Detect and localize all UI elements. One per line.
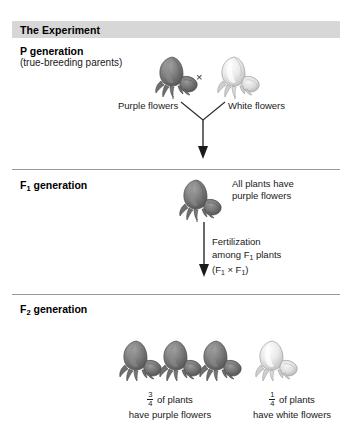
f2-white-caption: 14 of plants have white flowers xyxy=(244,391,340,421)
f2-white-caption-line-1: 14 of plants xyxy=(244,391,340,409)
fraction-one-quarter-denominator: 4 xyxy=(269,400,275,409)
f2-white-flower-icon-1 xyxy=(252,337,304,383)
f2-label-tail: generation xyxy=(31,303,88,315)
f2-white-caption-text-1: of plants xyxy=(276,394,315,405)
fertilization-note: Fertilization among F1 plants (F1 × F1) xyxy=(212,236,281,279)
fertilization-line3-open: (F xyxy=(212,264,221,275)
p-to-f1-cross-arrow xyxy=(178,98,230,160)
fraction-three-quarters: 34 xyxy=(147,391,153,409)
f2-purple-caption-text-1: of plants xyxy=(154,394,193,405)
fraction-one-quarter: 14 xyxy=(269,391,275,409)
f1-to-f2-arrow xyxy=(196,222,212,278)
experiment-header-title: The Experiment xyxy=(20,24,100,36)
f1-label-tail: generation xyxy=(31,179,88,191)
p-parent-white-caption: White flowers xyxy=(228,100,285,111)
fertilization-line-3: (F1 × F1) xyxy=(212,264,281,279)
fraction-three-quarters-denominator: 4 xyxy=(147,400,153,409)
p-parent-white-flower-icon xyxy=(214,53,266,99)
fertilization-line-1: Fertilization xyxy=(212,236,281,249)
f1-generation-label: F1 generation xyxy=(20,179,87,193)
f1-offspring-note: All plants have purple flowers xyxy=(232,178,294,202)
p-generation-label: P generation xyxy=(20,45,83,57)
section-divider-2 xyxy=(12,294,340,295)
fertilization-line-2: among F1 plants xyxy=(212,249,281,264)
p-parent-purple-caption: Purple flowers xyxy=(118,100,178,111)
f1-note-line-1: All plants have xyxy=(232,178,294,190)
p-generation-sublabel: (true-breeding parents) xyxy=(20,57,122,68)
section-divider-1 xyxy=(12,169,340,170)
f2-purple-caption: 34 of plants have purple flowers xyxy=(118,391,222,421)
fertilization-line3-close: ) xyxy=(245,264,248,275)
fertilization-line2-pre: among F xyxy=(212,249,250,260)
f2-purple-caption-line-2: have purple flowers xyxy=(118,409,222,421)
f2-purple-flower-icon-3 xyxy=(196,337,248,383)
genetics-experiment-figure: The Experiment P generation (true-breedi… xyxy=(0,0,352,431)
f2-generation-label: F2 generation xyxy=(20,303,87,317)
fertilization-line3-times: × F xyxy=(225,264,242,275)
fertilization-line2-post: plants xyxy=(253,249,281,260)
f2-purple-caption-line-1: 34 of plants xyxy=(118,391,222,409)
f1-note-line-2: purple flowers xyxy=(232,190,294,202)
cross-symbol: × xyxy=(196,71,202,83)
f2-white-caption-line-2: have white flowers xyxy=(244,409,340,421)
experiment-header-band: The Experiment xyxy=(12,21,340,38)
f1-offspring-purple-flower-icon xyxy=(176,176,228,222)
